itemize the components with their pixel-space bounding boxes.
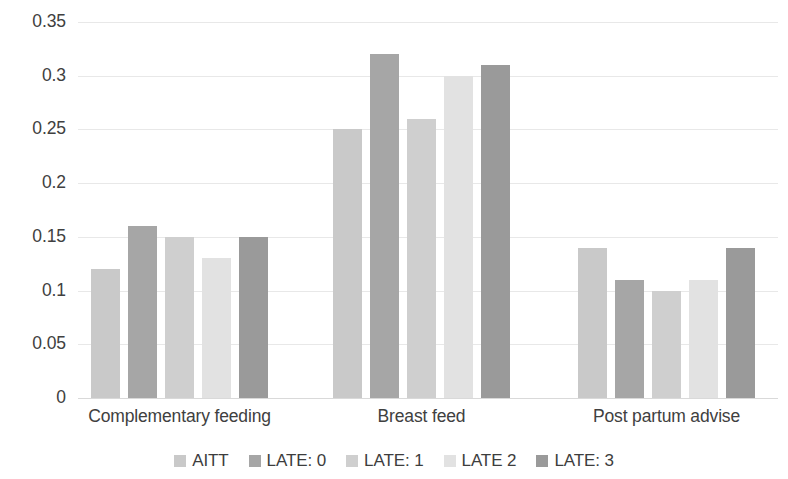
bar [407,119,436,398]
y-axis-tick-label: 0.1 [6,282,66,300]
bar-chart: Complementary feedingBreast feedPost par… [0,0,788,479]
bar-group [91,22,268,398]
legend-label: LATE 2 [462,452,517,470]
bar [689,280,718,398]
legend-item[interactable]: LATE: 3 [536,452,613,470]
y-axis-tick-label: 0.25 [6,120,66,138]
bar [481,65,510,398]
chart-legend: AITTLATE: 0LATE: 1LATE 2LATE: 3 [0,452,788,470]
x-axis-category-label: Post partum advise [517,406,788,426]
legend-swatch-icon [249,455,261,467]
y-axis-tick-label: 0.15 [6,228,66,246]
legend-label: AITT [192,452,228,470]
y-axis-tick-label: 0.3 [6,67,66,85]
legend-item[interactable]: LATE: 0 [249,452,326,470]
y-axis-tick-label: 0.2 [6,174,66,192]
y-axis-tick-label: 0.05 [6,335,66,353]
legend-swatch-icon [536,455,548,467]
legend-item[interactable]: AITT [174,452,228,470]
legend-label: LATE: 0 [267,452,326,470]
legend-swatch-icon [346,455,358,467]
legend-swatch-icon [444,455,456,467]
bar [726,248,755,398]
plot-area [78,22,778,398]
bar [202,258,231,398]
bar [578,248,607,398]
bar [165,237,194,398]
legend-item[interactable]: LATE: 1 [346,452,423,470]
y-axis-tick-label: 0.35 [6,13,66,31]
legend-label: LATE: 3 [554,452,613,470]
bar [333,129,362,398]
legend-item[interactable]: LATE 2 [444,452,517,470]
bar [370,54,399,398]
legend-label: LATE: 1 [364,452,423,470]
bar-group [333,22,510,398]
bar [239,237,268,398]
legend-swatch-icon [174,455,186,467]
y-axis-tick-label: 0 [6,389,66,407]
bar [652,291,681,398]
bar [128,226,157,398]
gridline [78,398,778,399]
bar [91,269,120,398]
bar [615,280,644,398]
bar [444,76,473,398]
bar-group [578,22,755,398]
